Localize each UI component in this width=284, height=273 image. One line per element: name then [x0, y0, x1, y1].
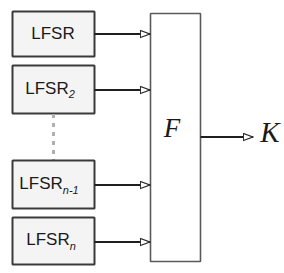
lfsr-2-subscript: 2 — [68, 87, 75, 99]
lfsr-block-2[interactable]: LFSR2 — [13, 66, 95, 114]
lfsr-block-n[interactable]: LFSRn — [13, 218, 95, 265]
lfsr-block-n-minus-1[interactable]: LFSRn-1 — [13, 161, 95, 209]
lfsr-combiner-diagram: LFSR LFSR2 LFSRn-1 LFSRn — [0, 0, 284, 273]
lfsr-n-minus-1-subscript: n-1 — [63, 183, 79, 195]
lfsr-2-label: LFSR2 — [25, 79, 75, 99]
lfsr-n-label: LFSRn — [26, 230, 76, 251]
keystream-label: K — [259, 116, 281, 148]
lfsr-block-1[interactable]: LFSR — [13, 12, 95, 57]
lfsr-n-minus-1-base: LFSR — [19, 174, 62, 193]
combining-function-label: F — [163, 113, 181, 143]
diagram-canvas: LFSR LFSR2 LFSRn-1 LFSRn — [0, 0, 284, 273]
lfsr-2-base: LFSR — [25, 79, 68, 98]
lfsr-n-base: LFSR — [26, 230, 69, 249]
lfsr-1-label: LFSR — [31, 24, 74, 43]
lfsr-1-base: LFSR — [31, 24, 74, 43]
combining-function-block[interactable]: F — [151, 14, 201, 262]
lfsr-n-subscript: n — [70, 239, 76, 251]
